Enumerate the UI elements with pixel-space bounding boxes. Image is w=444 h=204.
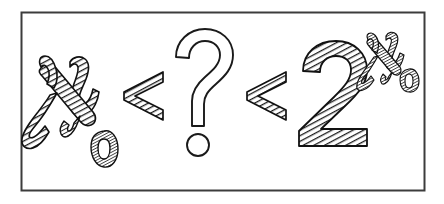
continuum-hypothesis-diagram — [0, 0, 444, 204]
question-mark-dot — [187, 134, 209, 156]
figure-canvas: ℵ0 < ? < 2^ℵ0 — [0, 0, 444, 204]
